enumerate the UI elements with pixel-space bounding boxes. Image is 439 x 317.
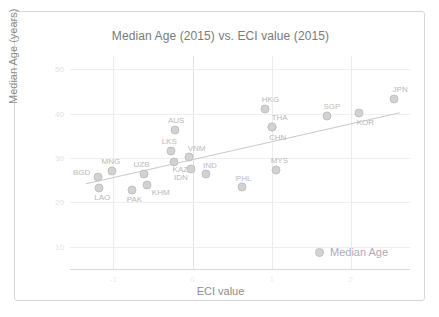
- y-axis-label: Median Age (years): [7, 9, 19, 104]
- data-point-label-tha: THA: [272, 113, 288, 122]
- y-tick-label: 10: [36, 242, 64, 251]
- data-point-label-uzb: UZB: [134, 160, 150, 169]
- data-point-label-mys: MYS: [271, 156, 288, 165]
- data-point-mys[interactable]: [272, 166, 281, 175]
- legend-marker-icon: [315, 248, 324, 257]
- data-point-chn[interactable]: [267, 123, 276, 132]
- data-point-label-khm: KHM: [152, 187, 170, 196]
- data-point-aus[interactable]: [171, 125, 180, 134]
- data-point-label-sgp: SGP: [324, 102, 341, 111]
- data-point-lks[interactable]: [167, 146, 176, 155]
- data-point-mng[interactable]: [107, 167, 116, 176]
- data-point-label-lao: LAO: [94, 193, 110, 202]
- data-point-bgd[interactable]: [93, 172, 102, 181]
- plot-area: BGDLAOMNGPAKKHMUZBAUSLKSKAZVNMIDNINDPHLM…: [70, 56, 410, 269]
- data-point-label-mng: MNG: [102, 157, 121, 166]
- x-axis-line: [70, 269, 410, 270]
- legend-label: Median Age: [330, 246, 388, 258]
- data-point-khm[interactable]: [142, 180, 151, 189]
- y-tick-label: 30: [36, 154, 64, 163]
- data-point-uzb[interactable]: [139, 170, 148, 179]
- data-point-label-kor: KOR: [357, 118, 374, 127]
- data-point-label-chn: CHN: [269, 133, 286, 142]
- data-point-label-hkg: HKG: [262, 95, 279, 104]
- data-point-label-ind: IND: [203, 161, 217, 170]
- data-point-pak[interactable]: [128, 185, 137, 194]
- y-tick-label: 20: [36, 198, 64, 207]
- data-point-hkg[interactable]: [260, 105, 269, 114]
- x-tick-label: 1: [269, 275, 273, 284]
- y-tick-label: 40: [36, 109, 64, 118]
- data-point-ind[interactable]: [202, 170, 211, 179]
- data-point-label-bgd: BGD: [73, 167, 90, 176]
- x-tick-label: 0: [190, 275, 194, 284]
- chart-legend: Median Age: [315, 246, 388, 258]
- data-point-phl[interactable]: [237, 182, 246, 191]
- data-point-label-pak: PAK: [127, 194, 142, 203]
- x-tick-label: 2: [348, 275, 352, 284]
- data-point-label-vnm: VNM: [188, 144, 206, 153]
- data-point-sgp[interactable]: [322, 112, 331, 121]
- data-point-label-phl: PHL: [236, 173, 252, 182]
- trendline: [70, 56, 410, 269]
- data-point-vnm[interactable]: [184, 153, 193, 162]
- y-tick-label: 50: [36, 65, 64, 74]
- data-point-jpn[interactable]: [390, 94, 399, 103]
- chart-page: Median Age (2015) vs. ECI value (2015) M…: [0, 0, 439, 317]
- data-point-label-idn: IDN: [174, 172, 188, 181]
- data-point-label-aus: AUS: [168, 115, 184, 124]
- data-point-kor[interactable]: [355, 109, 364, 118]
- chart-card: Median Age (2015) vs. ECI value (2015) M…: [14, 11, 425, 301]
- chart-title: Median Age (2015) vs. ECI value (2015): [15, 29, 426, 43]
- x-axis-label: ECI value: [15, 285, 426, 297]
- data-point-label-lks: LKS: [162, 136, 177, 145]
- data-point-lao[interactable]: [95, 184, 104, 193]
- data-point-label-jpn: JPN: [393, 84, 408, 93]
- x-tick-label: -1: [110, 275, 117, 284]
